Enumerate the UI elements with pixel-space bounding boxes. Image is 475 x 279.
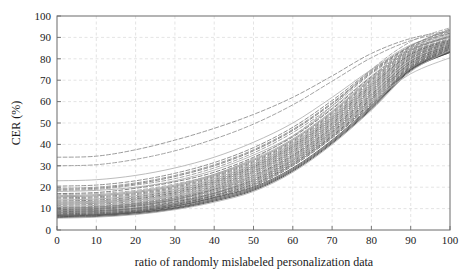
x-tick-label: 30 bbox=[169, 234, 181, 246]
cer-line-chart: 0102030405060708090100010203040506070809… bbox=[0, 0, 475, 279]
y-tick-label: 10 bbox=[40, 202, 52, 214]
x-axis-title: ratio of randomly mislabeled personaliza… bbox=[135, 255, 374, 269]
y-tick-label: 60 bbox=[40, 95, 52, 107]
x-tick-label: 10 bbox=[91, 234, 103, 246]
x-tick-label: 80 bbox=[366, 234, 378, 246]
y-tick-label: 0 bbox=[46, 224, 52, 236]
y-tick-label: 80 bbox=[40, 53, 52, 65]
x-tick-label: 100 bbox=[442, 234, 459, 246]
x-tick-label: 20 bbox=[130, 234, 142, 246]
chart-background bbox=[0, 0, 475, 279]
y-tick-label: 100 bbox=[35, 10, 52, 22]
y-tick-label: 90 bbox=[40, 31, 52, 43]
x-tick-label: 50 bbox=[248, 234, 260, 246]
y-tick-label: 30 bbox=[40, 160, 52, 172]
y-axis-title: CER (%) bbox=[9, 101, 23, 145]
x-tick-label: 60 bbox=[287, 234, 299, 246]
chart-figure: 0102030405060708090100010203040506070809… bbox=[0, 0, 475, 279]
y-tick-label: 20 bbox=[40, 181, 52, 193]
y-tick-label: 40 bbox=[40, 138, 52, 150]
x-tick-label: 0 bbox=[54, 234, 60, 246]
x-tick-label: 90 bbox=[405, 234, 417, 246]
x-tick-label: 40 bbox=[209, 234, 221, 246]
y-tick-label: 70 bbox=[40, 74, 52, 86]
y-tick-label: 50 bbox=[40, 117, 52, 129]
x-tick-label: 70 bbox=[327, 234, 339, 246]
